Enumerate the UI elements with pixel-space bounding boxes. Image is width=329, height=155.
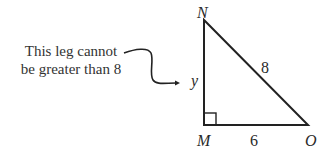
side-label-hypotenuse: 8 [261, 59, 269, 77]
right-angle-marker [204, 113, 216, 125]
vertex-label-m: M [197, 132, 210, 150]
annotation-arrow [124, 49, 176, 83]
triangle-diagram [0, 0, 329, 155]
right-triangle [204, 20, 308, 125]
vertex-label-n: N [197, 4, 208, 22]
side-label-leg: y [191, 72, 198, 90]
arrow-head-icon [175, 81, 180, 86]
vertex-label-o: O [305, 132, 317, 150]
side-label-base: 6 [250, 132, 258, 150]
